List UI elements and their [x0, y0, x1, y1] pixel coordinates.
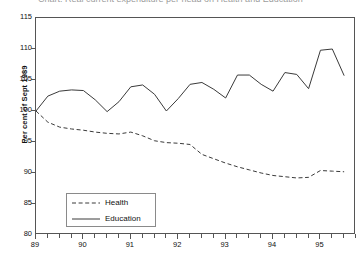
legend-item-health: Health — [67, 195, 155, 211]
x-tick-label: 92 — [167, 240, 187, 249]
legend-item-education: Education — [67, 211, 155, 227]
series-line-health — [36, 111, 344, 178]
x-tick-label: 93 — [215, 240, 235, 249]
legend-label-education: Education — [105, 214, 141, 224]
chart-legend: Health Education — [66, 193, 156, 227]
chart-figure: Chart: Real current expenditure per head… — [0, 0, 362, 276]
dashed-line-icon — [71, 198, 101, 208]
x-tick-label: 95 — [309, 240, 329, 249]
legend-label-health: Health — [105, 198, 128, 208]
x-tick-label: 91 — [120, 240, 140, 249]
x-tick-label: 89 — [25, 240, 45, 249]
solid-line-icon — [71, 214, 101, 224]
series-line-education — [36, 49, 344, 112]
x-tick-label: 94 — [262, 240, 282, 249]
x-tick-label: 90 — [72, 240, 92, 249]
